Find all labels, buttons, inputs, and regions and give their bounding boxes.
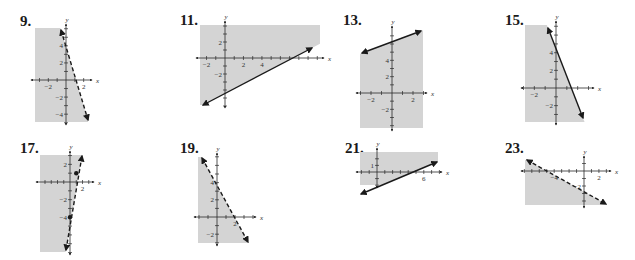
x-axis-label: x — [95, 77, 100, 85]
y-tick-label: 2 — [60, 59, 64, 67]
x-axis-label: x — [97, 179, 102, 187]
y-axis-label: y — [554, 13, 559, 21]
graphs-canvas: −2242−2−4xy−2242−2xy−2242−2xy−242−2xy22−… — [0, 0, 635, 260]
y-tick-label: 2 — [550, 67, 554, 75]
x-axis-label: x — [445, 169, 450, 177]
x-tick-label: 4 — [260, 61, 264, 69]
y-tick-label: 4 — [60, 42, 64, 50]
x-tick-label: 6 — [422, 175, 426, 183]
y-tick-label: −2 — [60, 196, 68, 204]
y-axis-label: y — [215, 145, 220, 153]
x-axis-label: x — [597, 85, 602, 93]
x-axis-label: x — [259, 214, 264, 222]
x-tick-label: 2 — [81, 185, 85, 193]
y-axis-label: y — [68, 143, 73, 151]
x-tick-label: 2 — [242, 61, 246, 69]
x-axis-label: x — [327, 55, 332, 63]
y-axis-label: y — [582, 148, 587, 156]
plotted-point — [68, 215, 72, 219]
plotted-point — [74, 171, 78, 175]
y-tick-label: 4 — [211, 179, 215, 187]
y-tick-label: 4 — [386, 57, 390, 65]
y-tick-label: −2 — [207, 231, 215, 239]
y-tick-label: 2 — [211, 196, 215, 204]
y-tick-label: 2 — [219, 39, 223, 47]
x-tick-label: −4 — [550, 174, 558, 182]
y-tick-label: −2 — [382, 106, 390, 114]
x-tick-label: 2 — [411, 96, 415, 104]
y-tick-label: 4 — [550, 49, 554, 57]
y-tick-label: −2 — [215, 71, 223, 79]
y-axis-label: y — [64, 16, 69, 24]
x-axis-label: x — [430, 90, 435, 98]
y-tick-label: −2 — [546, 102, 554, 110]
y-tick-label: 2 — [64, 161, 68, 169]
x-tick-label: 2 — [597, 174, 601, 182]
x-tick-label: 2 — [82, 83, 86, 91]
x-tick-label: −2 — [203, 61, 211, 69]
x-axis-label: x — [614, 168, 619, 176]
y-tick-label: −4 — [56, 111, 64, 119]
y-axis-label: y — [375, 140, 380, 148]
y-tick-label: −4 — [60, 214, 68, 222]
x-tick-label: −2 — [45, 83, 53, 91]
y-axis-label: y — [390, 18, 395, 26]
y-axis-label: y — [223, 13, 228, 21]
y-tick-label: 2 — [386, 73, 390, 81]
x-tick-label: −2 — [367, 96, 375, 104]
y-tick-label: −2 — [56, 94, 64, 102]
y-tick-label: 1 — [371, 162, 375, 170]
x-tick-label: −2 — [531, 91, 539, 99]
